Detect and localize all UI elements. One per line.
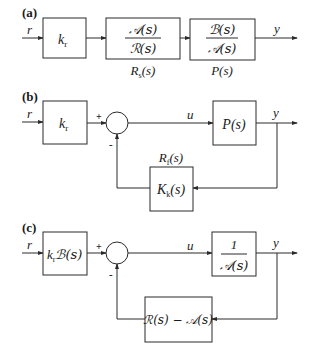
plant-denominator: 𝒜(s) bbox=[208, 41, 237, 56]
rs-caption: Rs(s) bbox=[130, 63, 156, 80]
rs-denominator: ℛ(s) bbox=[130, 41, 157, 56]
minus-sign: - bbox=[109, 138, 113, 150]
plus-sign: + bbox=[96, 241, 102, 252]
feedback-caption: Rf(s) bbox=[158, 150, 183, 167]
feedback-path-in bbox=[117, 264, 145, 319]
summing-junction bbox=[106, 242, 128, 264]
feedback-path-in bbox=[117, 134, 150, 188]
output-y-label: y bbox=[272, 21, 280, 36]
panel-c: (c) r krℬ(s) + u 1 𝒜(s) y ℛ(s) − 𝒜(s) - bbox=[22, 220, 297, 342]
gain-block bbox=[43, 18, 86, 58]
u-label: u bbox=[187, 107, 194, 122]
plant-caption: P(s) bbox=[210, 63, 233, 78]
plant-numerator: 1 bbox=[231, 237, 238, 252]
input-r-label: r bbox=[27, 22, 33, 37]
panel-b: (b) r kr + u P(s) y Kk(s) Rf(s) - bbox=[22, 89, 297, 211]
block-diagram: (a) r kr 𝒜(s) ℛ(s) Rs(s) ℬ(s) 𝒜(s) P(s) … bbox=[0, 0, 314, 361]
u-label: u bbox=[187, 238, 194, 253]
panel-b-label: (b) bbox=[22, 89, 38, 104]
input-r-label: r bbox=[27, 237, 33, 252]
feedback-text: Kk(s) bbox=[156, 182, 185, 199]
summing-junction bbox=[106, 112, 128, 134]
panel-c-label: (c) bbox=[22, 220, 36, 235]
output-y-label: y bbox=[271, 235, 279, 250]
plus-sign: + bbox=[96, 111, 102, 122]
plant-denominator: 𝒜(s) bbox=[220, 258, 249, 273]
panel-a: (a) r kr 𝒜(s) ℛ(s) Rs(s) ℬ(s) 𝒜(s) P(s) … bbox=[22, 5, 297, 80]
output-y-label: y bbox=[271, 105, 279, 120]
input-r-label: r bbox=[27, 106, 33, 121]
rs-numerator: 𝒜(s) bbox=[129, 22, 158, 37]
minus-sign: - bbox=[109, 268, 113, 280]
feedback-text: ℛ(s) − 𝒜(s) bbox=[143, 313, 213, 327]
plant-numerator: ℬ(s) bbox=[209, 22, 236, 37]
plant-text: P(s) bbox=[221, 117, 246, 133]
panel-a-label: (a) bbox=[22, 5, 37, 20]
gain-kb: krℬ(s) bbox=[47, 247, 82, 264]
